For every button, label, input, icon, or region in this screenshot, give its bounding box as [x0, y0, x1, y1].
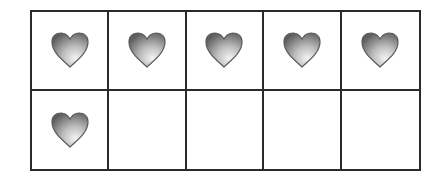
heart-icon — [50, 111, 90, 149]
frame-cell-empty — [264, 91, 341, 170]
frame-cell — [109, 12, 186, 91]
heart-icon — [127, 31, 167, 69]
frame-cell — [264, 12, 341, 91]
frame-cell-empty — [187, 91, 264, 170]
frame-cell — [32, 12, 109, 91]
frame-cell-empty — [109, 91, 186, 170]
frame-cell-empty — [342, 91, 419, 170]
frame-cell — [32, 91, 109, 170]
heart-icon — [50, 31, 90, 69]
heart-icon — [204, 31, 244, 69]
heart-icon — [282, 31, 322, 69]
heart-icon — [360, 31, 400, 69]
ten-frame-grid — [30, 10, 421, 171]
frame-cell — [342, 12, 419, 91]
frame-cell — [187, 12, 264, 91]
